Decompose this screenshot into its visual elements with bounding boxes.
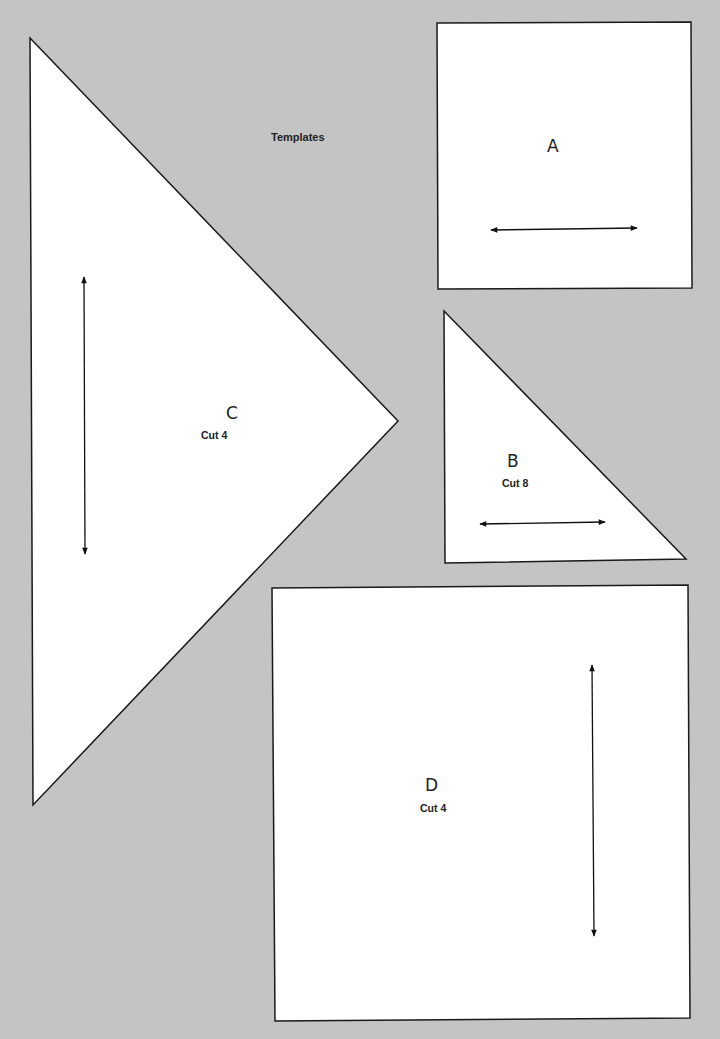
template-c-cut-count: Cut 4	[201, 429, 227, 441]
template-a-label: A	[547, 136, 559, 156]
template-c-label: C	[226, 403, 238, 423]
template-b-shape	[444, 311, 686, 563]
template-d-label: D	[425, 775, 438, 795]
template-d-shape	[272, 585, 690, 1021]
template-b-label: B	[507, 451, 519, 471]
template-d-cut-count: Cut 4	[420, 802, 446, 814]
templates-sheet	[0, 0, 720, 1039]
template-b-cut-count: Cut 8	[502, 477, 528, 489]
template-a-shape	[437, 22, 692, 289]
page-title: Templates	[271, 131, 325, 143]
